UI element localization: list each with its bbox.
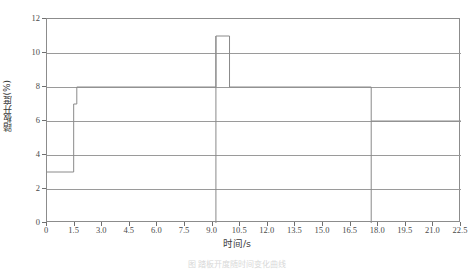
- x-axis-tick-label: 22.5: [445, 226, 474, 235]
- x-axis-tick-label: 19.5: [390, 226, 420, 235]
- x-axis-tick-label: 0: [31, 226, 61, 235]
- x-axis-tick-label: 16.5: [335, 226, 365, 235]
- x-axis-tick-label: 13.5: [279, 226, 309, 235]
- x-axis-tick-label: 4.5: [114, 226, 144, 235]
- x-axis-tick-label: 7.5: [169, 226, 199, 235]
- y-axis-tick-label: 12: [18, 14, 40, 23]
- y-axis-tick-label: 6: [18, 116, 40, 125]
- x-axis-tick-label: 21.0: [417, 226, 447, 235]
- y-axis-tick-label: 10: [18, 48, 40, 57]
- data-series-layer: [47, 19, 461, 223]
- x-axis-tick-label: 15.0: [307, 226, 337, 235]
- y-axis-tick: [42, 86, 46, 87]
- y-axis-tick-label: 8: [18, 82, 40, 91]
- y-axis-tick-label: 4: [18, 150, 40, 159]
- x-axis-tick-label: 1.5: [59, 226, 89, 235]
- y-axis-tick-label: 2: [18, 184, 40, 193]
- y-axis-tick: [42, 52, 46, 53]
- x-axis-tick-label: 6.0: [141, 226, 171, 235]
- x-axis-tick-label: 9.0: [197, 226, 227, 235]
- figure-caption: 图 踏板开度随时间变化曲线: [0, 258, 474, 269]
- y-axis-title: 踏板开度(%): [2, 80, 16, 132]
- x-axis-tick-label: 12.0: [252, 226, 282, 235]
- x-axis-tick-label: 3.0: [86, 226, 116, 235]
- x-axis-tick-label: 10.5: [224, 226, 254, 235]
- y-axis-tick: [42, 188, 46, 189]
- x-axis-title: 时间/s: [0, 236, 474, 250]
- chart-figure: 踏板开度(%) 02468101201.53.04.56.07.59.010.5…: [0, 0, 474, 272]
- y-axis-tick: [42, 18, 46, 19]
- plot-area: [46, 18, 460, 222]
- y-axis-tick: [42, 154, 46, 155]
- series-line: [47, 36, 461, 172]
- series-group: [47, 36, 461, 223]
- x-axis-tick-label: 18.0: [362, 226, 392, 235]
- y-axis-tick: [42, 120, 46, 121]
